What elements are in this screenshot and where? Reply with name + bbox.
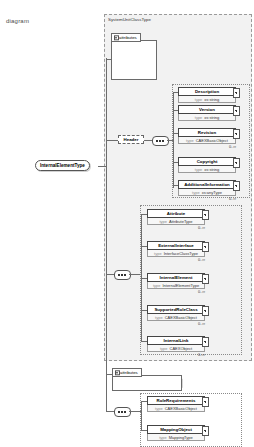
expand-icon[interactable] bbox=[202, 242, 209, 252]
expand-icon[interactable] bbox=[202, 337, 209, 347]
expand-icon[interactable] bbox=[202, 210, 209, 220]
cardinality: 0..∞ bbox=[198, 257, 205, 262]
cardinality: 0..∞ bbox=[198, 225, 205, 230]
expand-icon[interactable] bbox=[233, 158, 240, 168]
sequence-compositor-bottom[interactable] bbox=[114, 407, 131, 417]
node-external-interface[interactable]: ExternalInterface typeInterfaceClassType… bbox=[147, 241, 205, 257]
root-element-internal-element-type[interactable]: InternalElementType bbox=[35, 160, 90, 171]
connector-spine-main bbox=[106, 58, 107, 388]
expand-icon[interactable] bbox=[114, 35, 119, 40]
node-internal-link[interactable]: InternalLink typeCAEXObject 0..∞ bbox=[147, 336, 205, 352]
expand-icon[interactable] bbox=[233, 88, 240, 98]
connector-header-in bbox=[106, 140, 118, 141]
attributes-label: attributes bbox=[119, 35, 137, 40]
connector-header-spine bbox=[173, 92, 174, 188]
cardinality: 0..∞ bbox=[229, 144, 236, 149]
diagram-canvas: diagram SystemUnitClassType InternalElem… bbox=[0, 0, 254, 447]
node-role-requirements[interactable]: RoleRequirements typeCAEXBasicObject bbox=[147, 396, 205, 412]
cardinality: 0..∞ bbox=[198, 321, 205, 326]
node-copyright[interactable]: Copyright typexs:string bbox=[178, 157, 236, 173]
attributes-tab-bottom[interactable]: attributes bbox=[112, 368, 142, 377]
node-header[interactable]: Header bbox=[118, 135, 144, 144]
group-title-system-unit-class-type: SystemUnitClassType bbox=[108, 17, 151, 22]
attributes-label: attributes bbox=[120, 370, 138, 375]
sequence-compositor-header[interactable] bbox=[152, 136, 169, 146]
expand-icon[interactable] bbox=[233, 106, 240, 116]
connector-bottom-seq-in bbox=[106, 411, 114, 412]
node-description[interactable]: Description typexs:string bbox=[178, 87, 236, 103]
expand-icon[interactable] bbox=[202, 426, 209, 436]
attributes-body-top bbox=[111, 40, 157, 80]
node-mapping-object[interactable]: MappingObject typeMappingType bbox=[147, 425, 205, 441]
node-revision[interactable]: Revision typeCAEXBasicObject 0..∞ bbox=[178, 128, 236, 144]
node-attribute[interactable]: Attribute typeAttributeType 0..∞ bbox=[147, 209, 205, 225]
connector-header-out bbox=[144, 140, 152, 141]
connector-bottom-spine-down bbox=[106, 374, 107, 411]
cardinality: 0..∞ bbox=[198, 289, 205, 294]
expand-icon[interactable] bbox=[202, 274, 209, 284]
expand-icon[interactable] bbox=[202, 306, 209, 316]
connector-body-in bbox=[106, 274, 114, 275]
sequence-compositor-body[interactable] bbox=[114, 270, 131, 280]
node-additional-information[interactable]: AdditionalInformation typexs:anyType 0..… bbox=[178, 180, 236, 196]
connector-bottom-children-spine bbox=[141, 401, 142, 431]
node-internal-element[interactable]: InternalElement typeInternalElementType … bbox=[147, 273, 205, 289]
expand-icon[interactable] bbox=[233, 181, 240, 191]
cardinality: 0..∞ bbox=[198, 352, 205, 357]
expand-icon[interactable] bbox=[233, 129, 240, 139]
node-supported-role-class[interactable]: SupportedRoleClass typeCAEXBasicObject 0… bbox=[147, 305, 205, 321]
attributes-body-bottom bbox=[112, 375, 182, 391]
row-label: diagram bbox=[6, 18, 29, 24]
attributes-tab-top[interactable]: attributes bbox=[111, 33, 141, 42]
expand-icon[interactable] bbox=[115, 370, 120, 375]
expand-icon[interactable] bbox=[202, 397, 209, 407]
cardinality: 0..∞ bbox=[229, 196, 236, 201]
node-version[interactable]: Version typexs:string bbox=[178, 105, 236, 121]
connector-root-out bbox=[98, 166, 106, 167]
